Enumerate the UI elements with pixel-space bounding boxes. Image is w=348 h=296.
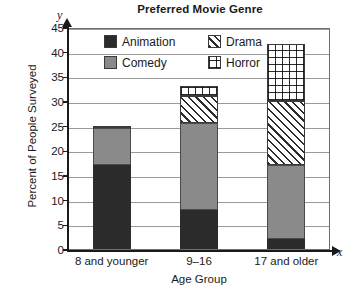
y-tick-mark — [63, 101, 68, 103]
chart-legend: Animation Drama Comedy Horror — [104, 32, 284, 74]
bar-segment-comedy — [180, 123, 218, 209]
legend-swatch-drama-icon — [208, 35, 221, 48]
y-tick-mark — [63, 126, 68, 128]
plot-area: Animation Drama Comedy Horror — [68, 28, 330, 250]
y-tick-label: 5 — [38, 219, 64, 231]
legend-label-horror: Horror — [226, 56, 260, 70]
y-tick-mark — [63, 151, 68, 153]
y-tick-label: 30 — [38, 96, 64, 108]
legend-label-drama: Drama — [226, 35, 262, 49]
legend-swatch-animation-icon — [104, 35, 117, 48]
legend-item-drama: Drama — [208, 32, 262, 51]
bar-segment-animation — [93, 165, 131, 249]
legend-label-comedy: Comedy — [122, 56, 167, 70]
y-axis-line — [67, 22, 69, 251]
legend-item-horror: Horror — [208, 53, 260, 72]
y-tick-label: 25 — [38, 121, 64, 133]
y-tick-label: 20 — [38, 145, 64, 157]
x-axis-arrow-icon — [332, 246, 341, 256]
y-tick-mark — [63, 77, 68, 79]
y-tick-label: 0 — [38, 244, 64, 256]
legend-swatch-comedy-icon — [104, 56, 117, 69]
y-tick-labels: 051015202530354045 — [34, 0, 64, 296]
x-category-label: 17 and older — [254, 255, 318, 267]
x-axis-title: Age Group — [68, 273, 330, 285]
bar-segment-animation — [180, 210, 218, 249]
y-tick-label: 35 — [38, 71, 64, 83]
y-tick-label: 15 — [38, 170, 64, 182]
preferred-movie-genre-chart: Preferred Movie Genre y x Percent of Peo… — [0, 0, 348, 296]
y-tick-mark — [63, 249, 68, 251]
legend-item-animation: Animation — [104, 32, 175, 51]
bar-segment-comedy — [267, 165, 305, 239]
y-tick-label: 45 — [38, 22, 64, 34]
legend-row-1: Animation Drama — [104, 32, 284, 51]
y-tick-mark — [63, 52, 68, 54]
bar-segment-drama — [93, 126, 131, 128]
x-axis-line — [67, 250, 334, 252]
chart-title: Preferred Movie Genre — [70, 3, 330, 15]
y-tick-mark — [63, 27, 68, 29]
legend-row-2: Comedy Horror — [104, 53, 284, 72]
bar-segment-animation — [267, 239, 305, 249]
y-tick-label: 10 — [38, 195, 64, 207]
x-category-label: 9–16 — [186, 255, 212, 267]
y-tick-mark — [63, 200, 68, 202]
bar-segment-drama — [267, 101, 305, 165]
bar-segment-drama — [180, 96, 218, 123]
y-tick-mark — [63, 175, 68, 177]
x-category-label: 8 and younger — [75, 255, 149, 267]
legend-swatch-horror-icon — [208, 56, 221, 69]
legend-label-animation: Animation — [122, 35, 175, 49]
y-tick-mark — [63, 225, 68, 227]
y-tick-label: 40 — [38, 47, 64, 59]
bar-segment-horror — [180, 86, 218, 96]
legend-item-comedy: Comedy — [104, 53, 167, 72]
bar-segment-comedy — [93, 128, 131, 165]
